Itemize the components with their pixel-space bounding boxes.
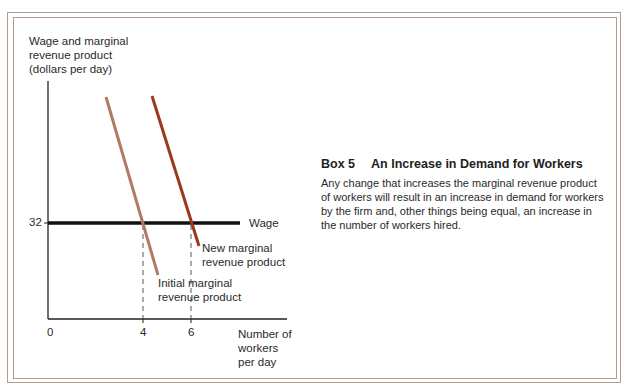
x-tick-label-4: 4 bbox=[140, 326, 146, 338]
box-title-text: An Increase in Demand for Workers bbox=[371, 157, 583, 171]
new-mrp-label-line: New marginal bbox=[202, 241, 285, 255]
x-tick-label-6: 6 bbox=[188, 326, 194, 338]
wage-label: Wage bbox=[249, 216, 279, 230]
new-mrp-label-line: revenue product bbox=[202, 255, 285, 269]
initial-mrp-curve bbox=[106, 97, 158, 275]
initial-mrp-label-line: Initial marginal bbox=[158, 276, 241, 290]
caption-body: Any change that increases the marginal r… bbox=[321, 176, 606, 232]
x-axis-label-line: Number of bbox=[238, 327, 292, 341]
x-tick-label-0: 0 bbox=[47, 326, 53, 338]
y-axis-label: Wage and marginal revenue product (dolla… bbox=[29, 34, 128, 76]
box-number: Box 5 bbox=[321, 157, 355, 171]
y-axis-label-line: (dollars per day) bbox=[29, 62, 128, 76]
y-axis-label-line: revenue product bbox=[29, 48, 128, 62]
x-axis-label-line: per day bbox=[238, 355, 292, 369]
initial-mrp-label-line: revenue product bbox=[158, 290, 241, 304]
y-tick-label-32: 32 bbox=[29, 216, 42, 228]
caption-box: Box 5An Increase in Demand for Workers A… bbox=[321, 157, 606, 232]
caption-title: Box 5An Increase in Demand for Workers bbox=[321, 157, 606, 171]
x-axis-label-line: workers bbox=[238, 341, 292, 355]
x-axis-label: Number of workers per day bbox=[238, 327, 292, 369]
new-mrp-label: New marginal revenue product bbox=[202, 241, 285, 269]
initial-mrp-label: Initial marginal revenue product bbox=[158, 276, 241, 304]
y-axis-label-line: Wage and marginal bbox=[29, 34, 128, 48]
